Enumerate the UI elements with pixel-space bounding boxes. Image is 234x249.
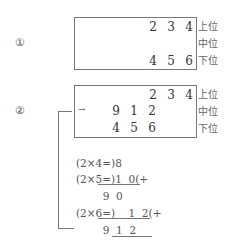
step2-top-digit: 4 xyxy=(184,88,194,102)
step-1-marker: ① xyxy=(15,36,25,49)
step2-top-digit: 3 xyxy=(166,88,176,102)
step2-middle-digit: 9 xyxy=(111,104,121,118)
label-upper: 上位 xyxy=(198,89,218,101)
calc-line: (2×4=)8 xyxy=(76,156,122,170)
label-lower: 下位 xyxy=(198,123,218,135)
step2-bottom-digit: 4 xyxy=(111,121,121,135)
bracket-top-line xyxy=(58,111,72,112)
step1-top-digit: 4 xyxy=(184,20,194,34)
label-upper: 上位 xyxy=(198,21,218,33)
step-1-board xyxy=(74,17,197,70)
step2-middle-digit: 2 xyxy=(147,104,157,118)
underline xyxy=(98,184,140,185)
label-middle: 中位 xyxy=(198,106,218,118)
label-middle: 中位 xyxy=(198,38,218,50)
step2-top-digit: 2 xyxy=(148,88,158,102)
bracket-bottom-line xyxy=(58,228,74,229)
step1-bottom-digit: 4 xyxy=(148,54,158,68)
underline xyxy=(112,236,152,237)
step2-bottom-digit: 5 xyxy=(129,121,139,135)
calc-line: 9 1 2 xyxy=(76,223,136,237)
calc-line: 9 0 xyxy=(76,189,123,203)
step2-bottom-digit: 6 xyxy=(147,121,157,135)
arrow-icon: → xyxy=(78,104,86,114)
step1-top-digit: 3 xyxy=(166,20,176,34)
step1-bottom-digit: 6 xyxy=(184,54,194,68)
bracket-vertical-line xyxy=(58,111,59,229)
label-lower: 下位 xyxy=(198,55,218,67)
underline xyxy=(98,218,150,219)
step2-middle-digit: 1 xyxy=(129,104,139,118)
step1-bottom-digit: 5 xyxy=(166,54,176,68)
step-2-marker: ② xyxy=(15,104,25,117)
step1-top-digit: 2 xyxy=(148,20,158,34)
